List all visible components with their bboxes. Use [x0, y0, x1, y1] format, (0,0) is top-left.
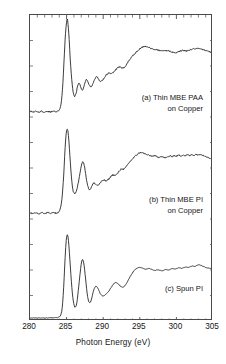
curve-label-c: (c) Spun PI [165, 284, 203, 295]
x-tick-label: 285 [53, 322, 79, 331]
plot-area: (a) Thin MBE PAA on Copper (b) Thin MBE … [29, 14, 212, 320]
curve-label-a: (a) Thin MBE PAA on Copper [142, 93, 203, 114]
curve-label-a-line2: on Copper [142, 104, 203, 115]
nexafs-figure: Secondary Electron Yield (arbitrary unit… [0, 0, 226, 364]
x-axis-title: Photon Energy (eV) [0, 338, 226, 347]
spectra-svg [30, 15, 212, 320]
x-tick-label: 295 [126, 322, 152, 331]
x-tick-label: 280 [16, 322, 42, 331]
x-tick-label: 305 [199, 322, 225, 331]
x-tick-label: 300 [162, 322, 188, 331]
curve-label-b-line2: on Copper [149, 206, 203, 217]
curve-label-b-line1: (b) Thin MBE PI [149, 195, 203, 206]
spectrum-curve [30, 235, 212, 318]
curve-label-a-line1: (a) Thin MBE PAA [142, 93, 203, 104]
curve-label-b: (b) Thin MBE PI on Copper [149, 195, 203, 216]
x-tick-label: 290 [89, 322, 115, 331]
curve-label-c-line1: (c) Spun PI [165, 284, 203, 295]
